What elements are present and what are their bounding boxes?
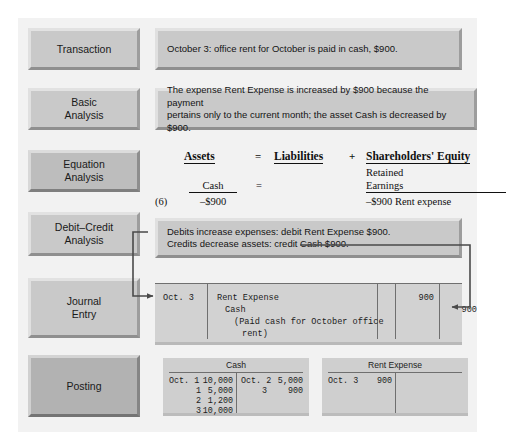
journal-entry-explanation-line-1: (Paid cash for October office [234,317,384,327]
equation-header-equity: Shareholders' Equity [366,150,470,164]
t-account-rent-expense-title: Rent Expense [322,360,468,370]
t-account-cash-debit-amount-2: 1,200 [189,396,233,406]
stage-label-transaction: Transaction [28,28,140,70]
t-account-rent-expense-debit-amount-0: 900 [352,376,392,386]
journal-entry-table: Oct. 3 Rent Expense Cash (Paid cash for … [155,283,462,345]
t-account-rent-expense-center-line [395,372,396,413]
t-account-cash-title: Cash [163,360,309,370]
basic-analysis-line-2: pertains only to the current month; the … [167,109,465,134]
equation-equity-sub-line-1: Retained [366,167,403,178]
t-account-cash-credit-amount-0: 5,000 [261,376,303,386]
stage-label-posting-text: Posting [66,380,101,393]
journal-entry-credit-amount: 900 [444,305,477,315]
basic-analysis-line-1: The expense Rent Expense is increased by… [167,84,465,109]
debit-credit-line-1: Debits increase expenses: debit Rent Exp… [167,226,450,239]
journal-divider-debit [439,284,440,339]
equation-header-liabilities: Liabilities [274,150,323,164]
stage-label-journal-entry-text: Journal Entry [67,295,101,321]
journal-divider-ref-b [395,284,396,339]
t-account-cash-credit-amount-1: 900 [261,386,303,396]
stage-label-basic-analysis-text: Basic Analysis [64,96,103,122]
journal-divider-ref-a [377,284,378,339]
stage-label-equation-analysis-text: Equation Analysis [63,158,104,184]
stage-label-equation-analysis: Equation Analysis [28,150,140,192]
stage-label-journal-entry: Journal Entry [28,278,140,338]
equation-asset-amount: –$900 [189,196,237,207]
journal-divider-date [207,284,208,339]
debit-credit-line-2: Credits decrease assets: credit Cash $90… [167,238,450,251]
stage-label-basic-analysis: Basic Analysis [28,88,140,130]
t-account-cash-debit-amount-0: 10,000 [189,376,233,386]
journal-entry-debit-amount: 900 [401,293,434,303]
journal-entry-explanation-line-2: rent) [242,329,268,339]
t-account-cash-debit-amount-3: 10,000 [189,406,233,416]
transaction-box: October 3: office rent for October is pa… [155,28,462,70]
stage-label-posting: Posting [28,355,140,417]
equation-header-equals: = [255,150,261,162]
t-account-rent-expense: Rent Expense Oct. 3 900 [322,358,468,416]
transaction-text: October 3: office rent for October is pa… [167,43,398,56]
equation-header-plus: + [349,150,355,162]
equation-equity-amount: –$900 Rent expense [366,196,451,207]
t-account-cash-center-line [236,372,237,413]
journal-entry-date: Oct. 3 [163,293,194,303]
equation-entry-number: (6) [155,196,167,207]
t-account-cash-debit-amount-1: 5,000 [189,386,233,396]
debit-credit-analysis-box: Debits increase expenses: debit Rent Exp… [155,218,462,258]
equation-equity-sub-line-2: Earnings [366,180,506,193]
equation-header-assets: Assets [184,150,215,164]
basic-analysis-box: The expense Rent Expense is increased by… [155,88,477,130]
journal-entry-credit-account: Cash [225,305,246,315]
stage-label-debit-credit-analysis-text: Debit–Credit Analysis [55,221,113,247]
stage-label-transaction-text: Transaction [57,43,111,56]
equation-analysis-content: Assets = Liabilities + Shareholders' Equ… [155,150,477,212]
equation-row-equals: = [256,180,262,191]
t-account-cash: Cash Oct. 1 10,000 1 5,000 2 1,200 3 10,… [163,358,309,416]
equation-asset-account: Cash [189,180,237,193]
stage-label-debit-credit-analysis: Debit–Credit Analysis [28,212,140,256]
journal-entry-debit-account: Rent Expense [217,293,279,303]
